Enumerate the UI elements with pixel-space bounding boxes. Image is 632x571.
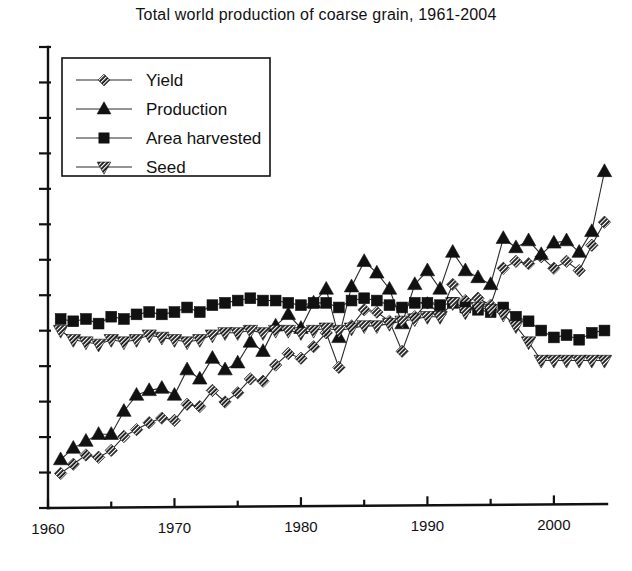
data-point-triangle-up xyxy=(180,362,194,375)
data-point-square xyxy=(169,307,180,318)
data-point-square xyxy=(346,295,357,306)
legend-label: Area harvested xyxy=(146,129,261,148)
data-point-triangle-down xyxy=(53,325,67,338)
data-point-triangle-up xyxy=(559,233,573,246)
data-point-diamond xyxy=(497,262,509,274)
data-point-square xyxy=(308,297,319,308)
x-axis-tick-label: 1970 xyxy=(158,519,191,536)
data-point-triangle-up xyxy=(230,355,244,368)
data-point-triangle-up xyxy=(521,233,535,246)
data-point-triangle-up xyxy=(420,263,434,276)
data-point-square xyxy=(548,332,559,343)
x-axis-tick-label: 1980 xyxy=(284,518,317,535)
data-point-triangle-down xyxy=(332,325,346,338)
data-point-triangle-down xyxy=(534,355,548,368)
data-point-square xyxy=(397,302,408,313)
data-point-triangle-up xyxy=(471,270,485,283)
data-point-triangle-up xyxy=(370,265,384,278)
data-point-diamond xyxy=(510,255,522,267)
data-point-square xyxy=(270,295,281,306)
data-point-diamond xyxy=(92,451,104,463)
data-point-triangle-down xyxy=(585,355,599,368)
data-point-square xyxy=(296,300,307,311)
data-point-square xyxy=(523,316,534,327)
data-point-triangle-down xyxy=(433,312,447,325)
data-point-diamond xyxy=(447,278,459,290)
data-point-square xyxy=(536,325,547,336)
legend-label: Production xyxy=(146,100,227,119)
data-point-square xyxy=(156,309,167,320)
legend-label: Seed xyxy=(146,158,186,177)
data-point-triangle-down xyxy=(597,355,611,368)
data-point-triangle-up xyxy=(585,224,599,237)
data-point-triangle-up xyxy=(91,427,105,440)
data-point-triangle-down xyxy=(496,309,510,322)
data-point-square xyxy=(55,314,66,325)
data-point-triangle-up xyxy=(79,434,93,447)
data-point-triangle-down xyxy=(559,355,573,368)
data-point-square xyxy=(371,295,382,306)
data-point-triangle-down xyxy=(256,328,270,341)
x-axis-tick-label: 1990 xyxy=(411,517,444,534)
data-point-triangle-up xyxy=(193,371,207,384)
data-point-square xyxy=(99,133,109,143)
data-point-diamond xyxy=(130,423,142,435)
data-point-square xyxy=(232,295,243,306)
data-point-triangle-up xyxy=(155,381,169,394)
legend-label: Yield xyxy=(146,71,183,90)
data-point-triangle-down xyxy=(572,355,586,368)
data-point-square xyxy=(422,297,433,308)
data-point-triangle-up xyxy=(357,254,371,267)
data-point-diamond xyxy=(257,375,269,387)
data-point-square xyxy=(93,318,104,329)
data-point-triangle-down xyxy=(230,328,244,341)
data-point-square xyxy=(118,314,129,325)
data-point-triangle-down xyxy=(117,337,131,350)
data-point-square xyxy=(574,334,585,345)
data-point-square xyxy=(207,300,218,311)
data-point-diamond xyxy=(333,361,345,373)
data-point-diamond xyxy=(156,412,168,424)
data-point-triangle-up xyxy=(597,164,611,177)
chart-legend: YieldProductionArea harvestedSeed xyxy=(62,58,270,177)
data-point-triangle-up xyxy=(167,387,181,400)
data-point-square xyxy=(220,297,231,308)
data-point-triangle-down xyxy=(547,355,561,368)
data-point-square xyxy=(409,297,420,308)
data-point-square xyxy=(561,330,572,341)
data-point-square xyxy=(68,316,79,327)
x-axis xyxy=(48,495,607,508)
data-point-diamond xyxy=(573,264,585,276)
data-point-triangle-down xyxy=(370,321,384,334)
data-point-diamond xyxy=(358,304,370,316)
data-point-square xyxy=(258,295,269,306)
data-point-square xyxy=(194,307,205,318)
data-point-square xyxy=(81,314,92,325)
chart-plot-area: YieldProductionArea harvestedSeed 196019… xyxy=(0,0,632,571)
x-axis-tick-label: 1960 xyxy=(31,520,64,537)
data-point-square xyxy=(245,293,256,304)
data-point-diamond xyxy=(143,417,155,429)
data-point-triangle-down xyxy=(294,328,308,341)
data-point-diamond xyxy=(396,345,408,357)
data-point-square xyxy=(586,327,597,338)
data-point-triangle-up xyxy=(445,245,459,258)
data-point-triangle-up xyxy=(433,281,447,294)
data-point-diamond xyxy=(67,458,79,470)
data-point-diamond xyxy=(598,216,610,228)
data-point-triangle-up xyxy=(66,440,80,453)
data-point-triangle-up xyxy=(218,362,232,375)
data-point-triangle-down xyxy=(205,330,219,343)
data-point-triangle-up xyxy=(458,263,472,276)
data-point-triangle-up xyxy=(483,277,497,290)
data-point-square xyxy=(599,325,610,336)
data-point-triangle-down xyxy=(521,337,535,350)
data-point-triangle-up xyxy=(129,387,143,400)
data-point-triangle-up xyxy=(281,307,295,320)
x-axis-tick-label: 2000 xyxy=(537,516,570,533)
data-point-square xyxy=(435,300,446,311)
data-point-triangle-down xyxy=(91,339,105,352)
data-point-triangle-up xyxy=(104,427,118,440)
data-point-diamond xyxy=(371,306,383,318)
data-point-triangle-up xyxy=(496,231,510,244)
